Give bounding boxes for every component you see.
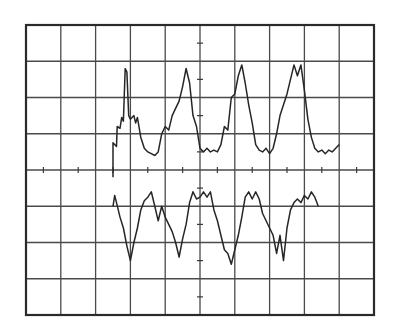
oscilloscope-display [0,0,394,334]
upper-trace [113,65,339,177]
waveform-traces [113,65,339,264]
lower-trace [113,192,318,264]
